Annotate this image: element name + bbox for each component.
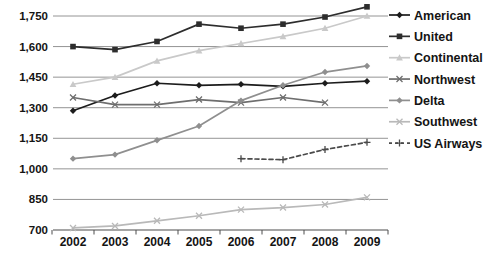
y-axis-tick-label: 1,150 [19,132,48,144]
marker-us-airways [280,156,287,163]
marker-us-airways [238,155,245,162]
marker-united [154,39,160,45]
y-axis-tick-label: 1,450 [19,71,48,83]
y-axis-tick-label: 700 [29,224,48,236]
legend-label-us-airways: US Airways [414,137,482,151]
airline-line-chart: 7008501,0001,1501,3001,4501,6001,7502002… [0,0,489,261]
legend-swatch-marker-us-airways [396,140,403,147]
marker-american [112,92,118,98]
marker-united [364,4,370,10]
marker-united [112,47,118,53]
x-axis-tick-label: 2008 [312,235,339,249]
marker-united [280,21,286,27]
marker-american [154,80,160,86]
legend-label-northwest: Northwest [414,73,476,87]
x-axis-tick-label: 2002 [60,235,87,249]
y-axis-tick-label: 1,600 [19,41,48,53]
marker-us-airways [322,146,329,153]
legend-swatch-marker-delta [396,97,402,103]
y-axis-tick-label: 850 [29,193,48,205]
marker-delta [112,151,118,157]
legend-swatch-marker-american [396,12,402,18]
x-axis-tick-label: 2006 [228,235,255,249]
x-axis-tick-label: 2004 [144,235,171,249]
marker-united [70,44,76,50]
legend-label-delta: Delta [414,94,446,108]
marker-american [238,81,244,87]
x-axis-tick-label: 2003 [102,235,129,249]
marker-american [322,80,328,86]
marker-american [70,108,76,114]
legend-swatch-marker-united [397,34,403,40]
legend-label-american: American [414,9,471,23]
marker-american [196,82,202,88]
y-axis-tick-label: 1,300 [19,102,48,114]
marker-united [196,21,202,27]
series-line-us-airways [241,142,367,159]
marker-delta [364,63,370,69]
legend-label-united: United [414,30,453,44]
x-axis-tick-label: 2007 [270,235,297,249]
y-axis-tick-label: 1,750 [19,10,48,22]
y-axis-tick-label: 1,000 [19,163,48,175]
marker-us-airways [364,139,371,146]
series-line-northwest [73,98,325,105]
legend-label-southwest: Southwest [414,115,478,129]
marker-delta [70,155,76,161]
x-axis-tick-label: 2009 [354,235,381,249]
legend-label-continental: Continental [414,51,483,65]
marker-united [238,25,244,31]
marker-delta [322,69,328,75]
x-axis-tick-label: 2005 [186,235,213,249]
marker-delta [280,82,286,88]
chart-svg: 7008501,0001,1501,3001,4501,6001,7502002… [0,0,489,261]
marker-united [322,14,328,20]
marker-american [364,78,370,84]
